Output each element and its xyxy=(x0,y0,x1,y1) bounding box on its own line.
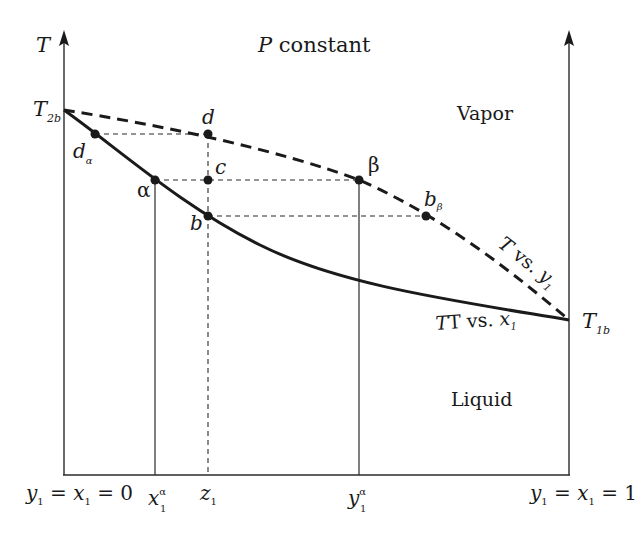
tick-y1-alpha: yα1 xyxy=(347,486,366,514)
label-d-alpha: dα xyxy=(73,139,93,166)
label-beta: β xyxy=(368,153,380,177)
vapor-label: Vapor xyxy=(456,102,514,124)
label-d: d xyxy=(202,105,215,129)
title: P constant xyxy=(257,33,371,57)
dew-curve xyxy=(64,110,569,320)
bubble-curve xyxy=(64,110,569,320)
tick-z1: z1 xyxy=(199,481,217,507)
y-axis-label: T xyxy=(36,33,52,57)
point-d xyxy=(204,130,213,139)
label-c: c xyxy=(215,155,226,179)
t1b-label: T1b xyxy=(582,309,610,337)
tick-x1-alpha: xα1 xyxy=(148,486,166,514)
t2b-label: T2b xyxy=(33,97,61,125)
x-left-label: y1 = x1 = 0 xyxy=(25,481,133,507)
label-b-beta: bβ xyxy=(424,187,443,212)
phase-diagram: P constant T T2b T1b Vapor Liquid TT vs.… xyxy=(0,0,639,539)
bubble-curve-label: TT vs. x1 xyxy=(435,306,518,337)
label-b: b xyxy=(190,211,203,235)
label-alpha: α xyxy=(137,178,151,202)
point-beta xyxy=(355,176,364,185)
point-c xyxy=(204,176,213,185)
point-b xyxy=(204,212,213,221)
point-d-alpha xyxy=(91,130,100,139)
x-right-label: y1 = x1 = 1 xyxy=(529,481,637,507)
liquid-label: Liquid xyxy=(451,388,512,410)
point-alpha xyxy=(151,176,160,185)
dew-curve-label: T vs. y1 xyxy=(493,232,562,294)
point-b-beta xyxy=(422,212,431,221)
